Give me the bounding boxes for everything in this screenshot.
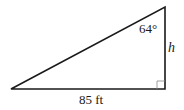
angle-label: 64°	[139, 21, 157, 36]
height-label: h	[168, 40, 175, 55]
right-angle-marker	[157, 81, 165, 89]
base-label: 85 ft	[79, 92, 104, 107]
triangle-diagram: 64° h 85 ft	[0, 0, 184, 110]
triangle	[11, 7, 165, 89]
